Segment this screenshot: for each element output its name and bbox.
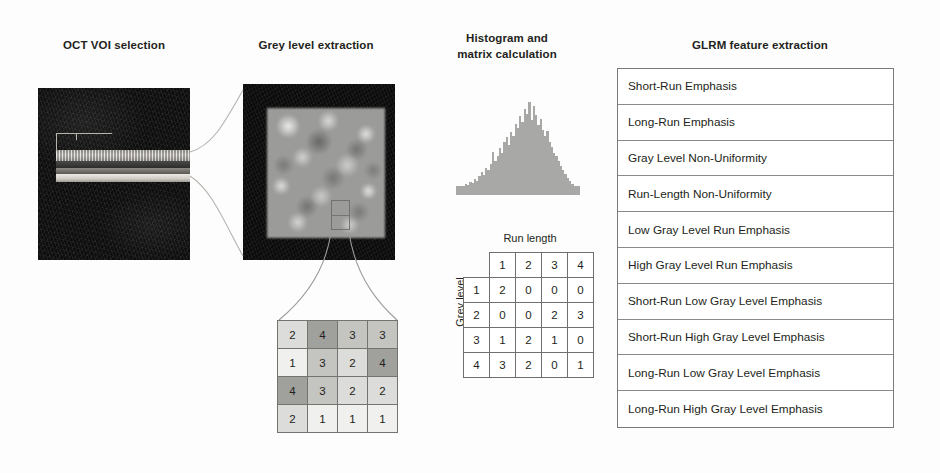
- matrix-row-header: 2: [464, 303, 490, 328]
- retinal-band-upper: [56, 150, 190, 161]
- connector-oct-to-grey-bottom: [190, 176, 243, 256]
- feature-row[interactable]: Gray Level Non-Uniformity: [618, 141, 893, 177]
- column-heading-histogram-line-1: Histogram and: [432, 31, 582, 47]
- glrm-feature-list-table: Short-Run EmphasisLong-Run EmphasisGray …: [617, 68, 894, 428]
- grey-level-histogram: [458, 102, 578, 194]
- matrix-cell: 2: [542, 303, 568, 328]
- grey-value-cell: 3: [308, 349, 338, 377]
- grey-value-cell: 2: [278, 321, 308, 349]
- matrix-row-header: 3: [464, 328, 490, 353]
- feature-row[interactable]: Low Gray Level Run Emphasis: [618, 212, 893, 248]
- grey-value-grid-row: 4322: [278, 377, 398, 405]
- connector-oct-to-grey-top: [190, 90, 243, 152]
- voi-bracket-marker: [56, 133, 112, 151]
- matrix-column-header: 2: [516, 253, 542, 278]
- matrix-corner-cell: [464, 253, 490, 278]
- matrix-column-header: 1: [490, 253, 516, 278]
- feature-row[interactable]: Short-Run High Gray Level Emphasis: [618, 320, 893, 356]
- glrm-pipeline-figure: OCT VOI selection Grey level extraction …: [0, 0, 940, 473]
- column-heading-grey-level-extraction: Grey level extraction: [232, 38, 400, 54]
- grey-value-cell: 1: [338, 405, 368, 433]
- matrix-cell: 0: [490, 303, 516, 328]
- grey-value-cell: 4: [308, 321, 338, 349]
- grey-value-cell: 3: [308, 377, 338, 405]
- matrix-axis-label-run-length: Run length: [470, 232, 590, 244]
- grey-value-cell: 4: [368, 349, 398, 377]
- grey-value-grid-row: 1324: [278, 349, 398, 377]
- grey-value-cell: 3: [368, 321, 398, 349]
- matrix-row-header: 4: [464, 353, 490, 378]
- matrix-cell: 2: [516, 353, 542, 378]
- grey-value-patch-grid: 2433132443222111: [277, 320, 398, 433]
- matrix-row-header: 1: [464, 278, 490, 303]
- retinal-band-lower: [56, 174, 190, 182]
- glrm-matrix-table: 123412000200233121043201: [463, 252, 594, 378]
- feature-row[interactable]: Short-Run Low Gray Level Emphasis: [618, 284, 893, 320]
- roi-selection-box: [331, 200, 350, 230]
- matrix-cell: 0: [516, 303, 542, 328]
- feature-row[interactable]: Long-Run Low Gray Level Emphasis: [618, 355, 893, 391]
- matrix-cell: 0: [542, 278, 568, 303]
- retinal-band-gap: [56, 161, 190, 168]
- oct-bscan-image: [38, 88, 190, 260]
- matrix-cell: 0: [568, 278, 594, 303]
- matrix-cell: 0: [516, 278, 542, 303]
- grey-value-cell: 3: [338, 321, 368, 349]
- feature-row[interactable]: High Gray Level Run Emphasis: [618, 248, 893, 284]
- matrix-row: 31210: [464, 328, 594, 353]
- matrix-cell: 1: [490, 328, 516, 353]
- matrix-cell: 2: [490, 278, 516, 303]
- column-heading-glrm-feature-extraction: GLRM feature extraction: [615, 38, 905, 54]
- grey-value-cell: 1: [368, 405, 398, 433]
- grey-value-cell: 2: [278, 405, 308, 433]
- matrix-cell: 3: [490, 353, 516, 378]
- matrix-cell: 0: [568, 328, 594, 353]
- matrix-column-header: 4: [568, 253, 594, 278]
- matrix-cell: 1: [542, 328, 568, 353]
- grey-level-extraction-image: [243, 84, 395, 260]
- grey-value-cell: 4: [278, 377, 308, 405]
- feature-row[interactable]: Long-Run High Gray Level Emphasis: [618, 391, 893, 427]
- glrm-run-length-matrix: 123412000200233121043201: [463, 252, 594, 378]
- histogram-baseline: [456, 186, 580, 195]
- grey-value-grid-table: 2433132443222111: [277, 320, 398, 433]
- matrix-row: 12000: [464, 278, 594, 303]
- feature-row[interactable]: Long-Run Emphasis: [618, 105, 893, 141]
- grey-value-grid-row: 2433: [278, 321, 398, 349]
- grey-value-grid-row: 2111: [278, 405, 398, 433]
- matrix-cell: 2: [516, 328, 542, 353]
- voi-tick-mark: [76, 133, 77, 140]
- column-heading-histogram-matrix-calculation: Histogram and matrix calculation: [432, 31, 582, 62]
- grey-value-cell: 1: [308, 405, 338, 433]
- matrix-cell: 1: [568, 353, 594, 378]
- matrix-row: 43201: [464, 353, 594, 378]
- matrix-cell: 0: [542, 353, 568, 378]
- grey-value-cell: 1: [278, 349, 308, 377]
- grey-level-texture-map: [267, 108, 385, 238]
- column-heading-histogram-line-2: matrix calculation: [432, 47, 582, 63]
- matrix-cell: 3: [568, 303, 594, 328]
- retinal-layer-complex: [56, 150, 190, 184]
- matrix-header-row: 1234: [464, 253, 594, 278]
- matrix-row: 20023: [464, 303, 594, 328]
- grey-value-cell: 2: [338, 349, 368, 377]
- column-heading-oct-voi-selection: OCT VOI selection: [30, 38, 198, 54]
- matrix-column-header: 3: [542, 253, 568, 278]
- grey-value-cell: 2: [368, 377, 398, 405]
- grey-value-cell: 2: [338, 377, 368, 405]
- feature-row[interactable]: Short-Run Emphasis: [618, 69, 893, 105]
- feature-row[interactable]: Run-Length Non-Uniformity: [618, 176, 893, 212]
